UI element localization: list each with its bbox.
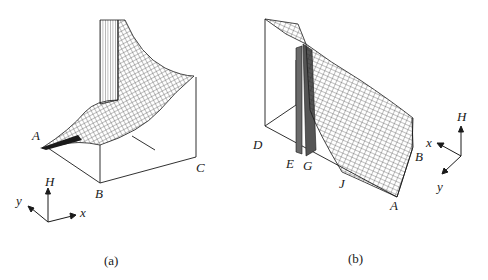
label-corner-a-b: A — [390, 199, 398, 212]
label-corner-c: C — [196, 161, 205, 174]
label-corner-d: D — [253, 138, 262, 151]
caption-a: (a) — [104, 254, 118, 267]
panel-a-wall — [100, 20, 118, 104]
label-corner-a: A — [32, 129, 40, 142]
figure-canvas — [0, 0, 488, 280]
label-corner-g: G — [303, 159, 312, 172]
label-corner-e: E — [286, 157, 294, 170]
panel-b-axis-triad — [437, 126, 464, 174]
axis-label-y: y — [16, 194, 22, 207]
panel-b-wall-e — [296, 46, 302, 154]
panel-a-mesh-surface — [42, 20, 194, 148]
panel-b-mesh-surface — [306, 44, 413, 197]
panel-a-axis-triad — [28, 188, 76, 222]
axis-label-h-b: H — [457, 110, 466, 123]
label-corner-b-b: B — [415, 150, 423, 163]
axis-label-x-b: x — [426, 136, 432, 149]
axis-label-y-b: y — [437, 180, 443, 193]
label-corner-b: B — [95, 187, 103, 200]
caption-b: (b) — [348, 252, 363, 265]
label-corner-j: J — [339, 177, 345, 190]
panel-a-surface-plot — [40, 20, 196, 183]
panel-b-top-mesh — [265, 19, 306, 44]
axis-label-h: H — [45, 175, 54, 188]
axis-label-x: x — [80, 206, 86, 219]
